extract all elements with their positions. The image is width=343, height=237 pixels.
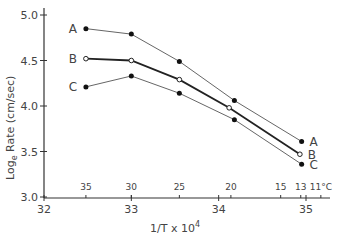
- data-point-open: [227, 106, 232, 111]
- x-axis-label: 1/T x 104: [150, 220, 200, 235]
- series-a: AA: [69, 22, 319, 150]
- data-point: [83, 26, 88, 31]
- y-tick-label: 3.5: [21, 146, 39, 159]
- data-point-open: [177, 77, 182, 82]
- data-point: [299, 162, 304, 167]
- data-point: [83, 84, 88, 89]
- temperature-tick-label: 15: [275, 182, 286, 192]
- temperature-tick-label: 30: [126, 182, 138, 192]
- series-label-left: A: [69, 22, 78, 36]
- series-group: AABBCC: [69, 22, 319, 173]
- y-tick-label: 3.0: [21, 191, 39, 204]
- data-point-open: [84, 56, 89, 61]
- series-line: [86, 76, 302, 164]
- data-point: [129, 73, 134, 78]
- chart: 3.03.54.04.55.03233343535302520151311°C …: [0, 0, 343, 237]
- data-point: [129, 32, 134, 37]
- data-point-open: [129, 58, 134, 63]
- y-tick-label: 4.0: [21, 100, 39, 113]
- x-tick-label: 33: [124, 203, 138, 216]
- data-point: [232, 98, 237, 103]
- x-tick-label: 34: [212, 203, 226, 216]
- data-point: [299, 139, 304, 144]
- x-tick-label: 32: [37, 203, 51, 216]
- temperature-tick-label: 13: [295, 182, 306, 192]
- series-line: [86, 59, 300, 155]
- x-tick-label: 35: [299, 203, 313, 216]
- temperature-tick-label: 20: [225, 182, 237, 192]
- temperature-tick-label: 35: [80, 182, 91, 192]
- y-tick-label: 5.0: [21, 9, 39, 22]
- data-point: [177, 91, 182, 96]
- data-point: [232, 117, 237, 122]
- temperature-tick-label: 11°C: [310, 182, 332, 192]
- series-line: [86, 29, 302, 142]
- series-label-left: C: [69, 80, 77, 94]
- series-b: BB: [69, 52, 316, 163]
- temperature-tick-label: 25: [174, 182, 185, 192]
- y-tick-label: 4.5: [21, 55, 39, 68]
- y-axis-label: Loge Rate (cm/sec): [4, 76, 19, 180]
- series-label-right: C: [309, 158, 317, 172]
- x-axis-label-superscript: 4: [195, 220, 200, 229]
- data-point: [177, 59, 182, 64]
- series-label-left: B: [69, 52, 77, 66]
- axes: 3.03.54.04.55.03233343535302520151311°C: [21, 8, 332, 216]
- data-point-open: [298, 152, 303, 157]
